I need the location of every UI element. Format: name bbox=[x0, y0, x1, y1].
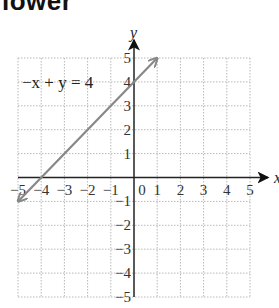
x-tick-label: −3 bbox=[56, 182, 72, 198]
x-tick-label: 2 bbox=[177, 182, 185, 198]
y-tick-label: −3 bbox=[115, 241, 131, 257]
x-tick-label: 5 bbox=[246, 182, 254, 198]
y-tick-label: −1 bbox=[115, 193, 131, 209]
y-tick-label: 1 bbox=[124, 146, 132, 162]
coordinate-plane-chart: xy−5−4−3−2−101234554321−1−2−3−4−5−x + y … bbox=[0, 0, 279, 308]
x-tick-label: −2 bbox=[80, 182, 96, 198]
y-tick-label: −2 bbox=[115, 217, 131, 233]
x-tick-label: 0 bbox=[138, 182, 146, 198]
x-axis-label: x bbox=[273, 169, 279, 186]
y-tick-label: −5 bbox=[115, 289, 131, 305]
equation-label: −x + y = 4 bbox=[22, 73, 94, 92]
y-tick-label: 5 bbox=[124, 50, 132, 66]
y-tick-label: −4 bbox=[115, 265, 131, 281]
x-tick-label: 4 bbox=[223, 182, 231, 198]
x-tick-label: 1 bbox=[153, 182, 161, 198]
y-axis-label: y bbox=[128, 24, 138, 42]
y-tick-label: 3 bbox=[124, 98, 132, 114]
x-tick-label: 3 bbox=[200, 182, 208, 198]
y-tick-label: 2 bbox=[124, 122, 132, 138]
